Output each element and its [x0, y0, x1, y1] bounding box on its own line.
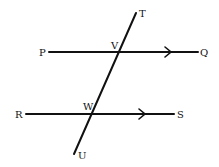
label-V: V [110, 40, 119, 51]
label-W: W [83, 101, 94, 112]
label-Q: Q [200, 47, 208, 58]
parallel-lines-diagram: T P V Q R W S U [0, 0, 219, 167]
label-R: R [15, 109, 23, 120]
label-T: T [139, 8, 146, 19]
transversal-TU [74, 13, 136, 154]
label-U: U [78, 150, 86, 161]
label-S: S [177, 109, 184, 120]
label-P: P [39, 47, 46, 58]
